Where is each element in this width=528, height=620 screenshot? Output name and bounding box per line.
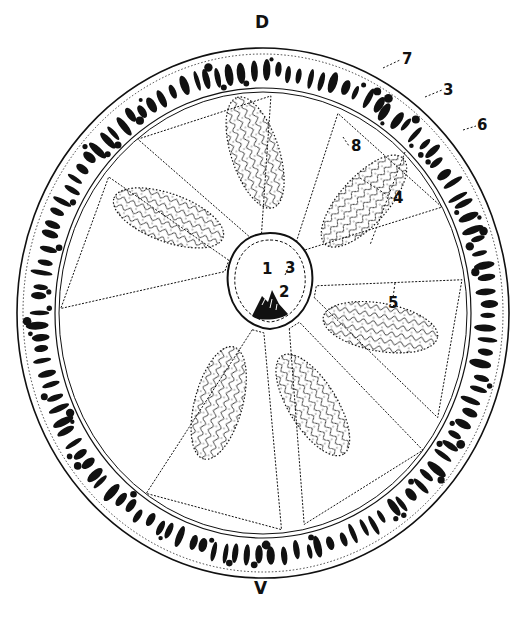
label-2: 2 — [279, 285, 289, 300]
label-3-inner: 3 — [285, 261, 295, 276]
label-6: 6 — [477, 118, 487, 133]
label-7: 7 — [402, 52, 412, 67]
dorsal-label: D — [255, 14, 269, 31]
ventral-label: V — [254, 580, 267, 597]
label-8: 8 — [351, 139, 361, 154]
label-4: 4 — [393, 191, 403, 206]
gut — [228, 233, 313, 329]
label-1: 1 — [262, 262, 272, 277]
label-3-outer: 3 — [443, 83, 453, 98]
label-5: 5 — [388, 296, 398, 311]
